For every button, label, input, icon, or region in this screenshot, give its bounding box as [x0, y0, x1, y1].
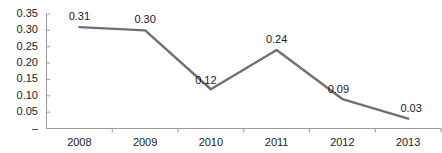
y-axis-tick-label: 0.05 [4, 106, 38, 117]
data-point-label: 0.12 [189, 75, 223, 86]
x-axis-tick-label: 2010 [181, 137, 241, 148]
data-point-label: 0.31 [62, 11, 96, 22]
x-axis-ticks [112, 129, 441, 133]
y-axis-tick-label: – [4, 123, 38, 134]
y-axis-ticks [47, 14, 51, 129]
y-axis-tick-label: 0.25 [4, 41, 38, 52]
y-axis-tick-label: 0.35 [4, 8, 38, 19]
line-chart: 0.350.300.250.200.150.100.05– 2008200920… [0, 0, 442, 153]
y-axis-tick-label: 0.15 [4, 73, 38, 84]
data-series-line [79, 27, 408, 119]
y-axis-tick-label: 0.10 [4, 90, 38, 101]
data-point-label: 0.30 [128, 14, 162, 25]
x-axis-tick-label: 2011 [247, 137, 307, 148]
x-axis-tick-label: 2009 [115, 137, 175, 148]
x-axis-tick-label: 2013 [378, 137, 438, 148]
x-axis-tick-label: 2012 [312, 137, 372, 148]
data-point-label: 0.09 [321, 84, 355, 95]
y-axis-tick-label: 0.30 [4, 24, 38, 35]
data-point-label: 0.24 [260, 34, 294, 45]
y-axis-tick-label: 0.20 [4, 57, 38, 68]
x-axis-tick-label: 2008 [49, 137, 109, 148]
data-point-label: 0.03 [394, 103, 428, 114]
